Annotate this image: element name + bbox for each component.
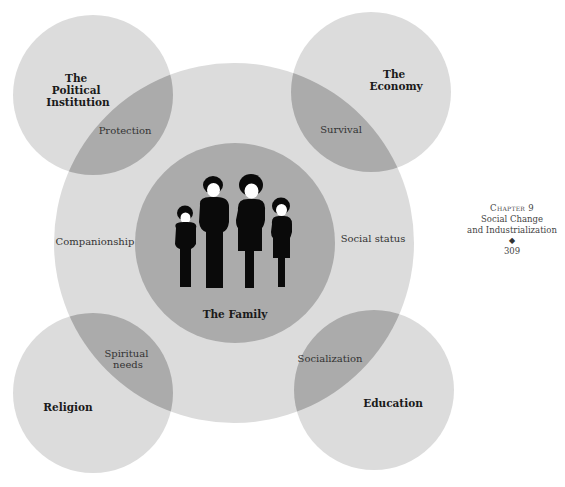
social-status-label: Social status <box>341 233 406 244</box>
chapter-heading: Chapter 9 <box>462 203 562 214</box>
education-label: Education <box>363 397 423 409</box>
central-label: The Family <box>203 308 269 320</box>
survival-label: Survival <box>320 124 362 135</box>
chapter-title-line-2: and Industrialization <box>462 225 562 236</box>
religion-label: Religion <box>43 401 93 413</box>
page-number: 309 <box>462 246 562 257</box>
socialization-label: Socialization <box>298 353 363 364</box>
protection-label: Protection <box>99 125 152 136</box>
chapter-title-line-1: Social Change <box>462 214 562 225</box>
companionship-label: Companionship <box>56 236 135 247</box>
diamond-separator-icon: ◆ <box>462 236 562 246</box>
chapter-margin-note: Chapter 9 Social Change and Industrializ… <box>462 203 562 257</box>
